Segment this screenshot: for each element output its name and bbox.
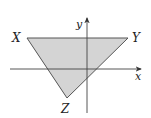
triangle-xyz — [27, 38, 128, 98]
vertex-z-label: Z — [60, 102, 70, 116]
diagram-canvas: x y X Y Z — [0, 0, 151, 118]
x-axis-label: x — [135, 70, 142, 83]
vertex-y-label: Y — [132, 31, 141, 45]
triangle-diagram: x y X Y Z — [0, 0, 151, 118]
vertex-x-label: X — [11, 31, 21, 45]
y-axis-label: y — [75, 18, 83, 31]
